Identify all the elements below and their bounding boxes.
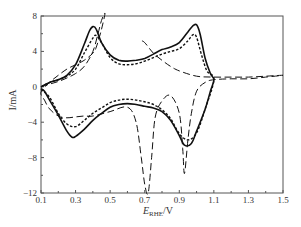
y-tick-label: 8 [33, 11, 38, 21]
x-tick-label: 0.9 [174, 195, 186, 205]
x-axis-label: ERHE/V [142, 205, 174, 218]
y-tick-label: 4 [33, 46, 38, 56]
x-tick-label: 0.3 [70, 195, 82, 205]
x-tick-label: 1.3 [243, 195, 255, 205]
x-axis-ticks: 0.10.30.50.70.91.11.31.5 [35, 190, 289, 205]
x-tick-label: 0.7 [139, 195, 151, 205]
y-tick-label: −8 [27, 153, 37, 163]
cv-curves [41, 13, 283, 194]
y-tick-label: 0 [33, 82, 38, 92]
plot-frame [41, 16, 283, 193]
y-tick-label: −12 [23, 188, 37, 198]
y-tick-label: −4 [27, 117, 37, 127]
cv-chart: 0.10.30.50.70.91.11.31.5 840−4−8−12 I/mA… [0, 0, 301, 227]
x-tick-label: 1.1 [208, 195, 219, 205]
x-tick-label: 0.1 [35, 195, 46, 205]
curve-short-dash [41, 34, 214, 140]
curve-long-dash [41, 13, 283, 194]
x-tick-label: 0.5 [105, 195, 117, 205]
y-axis-label: I/mA [7, 89, 18, 111]
curve-solid [41, 24, 214, 146]
x-tick-label: 1.5 [277, 195, 289, 205]
